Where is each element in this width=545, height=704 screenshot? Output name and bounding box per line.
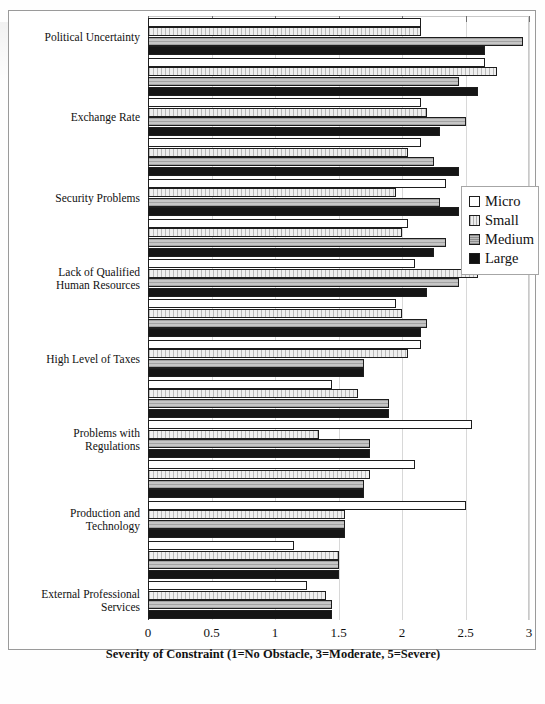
- bar-small[interactable]: [148, 389, 358, 398]
- bar-small[interactable]: [148, 108, 427, 117]
- bar-large[interactable]: [148, 610, 332, 619]
- bar-small[interactable]: [148, 148, 408, 157]
- bar-large[interactable]: [148, 570, 339, 579]
- x-tick-label: 1.5: [330, 625, 346, 641]
- bar-micro[interactable]: [148, 460, 415, 469]
- bar-group: [148, 298, 529, 338]
- bar-group: [148, 137, 529, 177]
- bar-small[interactable]: [148, 470, 370, 479]
- bar-large[interactable]: [148, 529, 345, 538]
- bar-medium[interactable]: [148, 238, 446, 247]
- bar-small[interactable]: [148, 188, 396, 197]
- bar-medium[interactable]: [148, 600, 332, 609]
- bar-series-area: [148, 16, 529, 620]
- bar-micro[interactable]: [148, 138, 421, 147]
- x-tick-label: 1: [272, 625, 279, 641]
- bar-medium[interactable]: [148, 480, 364, 489]
- bar-group: [148, 419, 529, 459]
- bar-micro[interactable]: [148, 259, 415, 268]
- bar-micro[interactable]: [148, 581, 307, 590]
- bar-group: [148, 16, 529, 56]
- legend-swatch-micro-icon: [469, 196, 480, 207]
- legend-label: Large: [485, 250, 519, 267]
- bar-large[interactable]: [148, 207, 459, 216]
- bar-micro[interactable]: [148, 299, 396, 308]
- bar-medium[interactable]: [148, 359, 364, 368]
- bar-group: [148, 56, 529, 96]
- bar-micro[interactable]: [148, 18, 421, 27]
- bar-large[interactable]: [148, 167, 459, 176]
- bar-medium[interactable]: [148, 278, 459, 287]
- legend-swatch-medium-icon: [469, 234, 480, 245]
- bar-micro[interactable]: [148, 501, 466, 510]
- bar-group: [148, 539, 529, 579]
- legend-label: Micro: [485, 193, 520, 210]
- bar-group: [148, 459, 529, 499]
- bar-group: [148, 338, 529, 378]
- bar-large[interactable]: [148, 46, 485, 55]
- legend-swatch-small-icon: [469, 215, 480, 226]
- bar-group: [148, 97, 529, 137]
- bar-micro[interactable]: [148, 541, 294, 550]
- bar-large[interactable]: [148, 288, 427, 297]
- legend-swatch-large-icon: [469, 253, 480, 264]
- bar-medium[interactable]: [148, 399, 389, 408]
- x-tick-label: 2.5: [457, 625, 473, 641]
- legend-item-small[interactable]: Small: [469, 211, 530, 230]
- bar-large[interactable]: [148, 409, 389, 418]
- category-label: Lack of Qualified Human Resources: [12, 266, 140, 292]
- bar-large[interactable]: [148, 449, 370, 458]
- bar-small[interactable]: [148, 591, 326, 600]
- bar-micro[interactable]: [148, 219, 408, 228]
- bar-small[interactable]: [148, 309, 402, 318]
- bar-small[interactable]: [148, 228, 402, 237]
- bar-micro[interactable]: [148, 340, 421, 349]
- bar-micro[interactable]: [148, 380, 332, 389]
- gridline: [529, 16, 530, 620]
- legend-item-medium[interactable]: Medium: [469, 230, 530, 249]
- bar-large[interactable]: [148, 328, 421, 337]
- bar-small[interactable]: [148, 430, 319, 439]
- bar-medium[interactable]: [148, 319, 427, 328]
- bar-large[interactable]: [148, 127, 440, 136]
- bar-group: [148, 499, 529, 539]
- legend[interactable]: MicroSmallMediumLarge: [461, 186, 539, 275]
- bar-micro[interactable]: [148, 98, 421, 107]
- bar-large[interactable]: [148, 368, 364, 377]
- bar-large[interactable]: [148, 87, 478, 96]
- category-label: Exchange Rate: [12, 111, 140, 124]
- bar-large[interactable]: [148, 248, 434, 257]
- x-tick-label: 0.5: [203, 625, 219, 641]
- bar-micro[interactable]: [148, 420, 472, 429]
- bar-group: [148, 580, 529, 620]
- bar-micro[interactable]: [148, 179, 446, 188]
- legend-item-large[interactable]: Large: [469, 249, 530, 268]
- bar-small[interactable]: [148, 349, 408, 358]
- bar-small[interactable]: [148, 510, 345, 519]
- bar-small[interactable]: [148, 551, 339, 560]
- legend-label: Medium: [485, 231, 534, 248]
- chart-frame: Political UncertaintyExchange RateSecuri…: [8, 10, 536, 650]
- category-label: Security Problems: [12, 192, 140, 205]
- category-label: Production and Technology: [12, 507, 140, 533]
- category-label: External Professional Services: [12, 588, 140, 614]
- bar-small[interactable]: [148, 27, 421, 36]
- bar-micro[interactable]: [148, 58, 485, 67]
- bar-medium[interactable]: [148, 198, 440, 207]
- bar-medium[interactable]: [148, 439, 370, 448]
- bar-medium[interactable]: [148, 37, 523, 46]
- bar-medium[interactable]: [148, 520, 345, 529]
- bar-medium[interactable]: [148, 117, 466, 126]
- bar-large[interactable]: [148, 489, 364, 498]
- x-tick-label: 3: [526, 625, 533, 641]
- bar-medium[interactable]: [148, 77, 459, 86]
- bar-small[interactable]: [148, 67, 497, 76]
- bar-medium[interactable]: [148, 560, 339, 569]
- tick-mark: [529, 16, 530, 22]
- bar-medium[interactable]: [148, 157, 434, 166]
- legend-item-micro[interactable]: Micro: [469, 192, 530, 211]
- legend-label: Small: [485, 212, 519, 229]
- bar-group: [148, 378, 529, 418]
- category-label: High Level of Taxes: [12, 353, 140, 366]
- bar-small[interactable]: [148, 269, 478, 278]
